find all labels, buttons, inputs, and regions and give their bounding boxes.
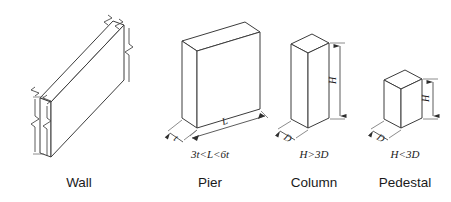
element-column: D H H>3D Column: [278, 34, 345, 190]
caption-pedestal: Pedestal: [379, 175, 432, 190]
formula-pier: 3t<L<6t: [190, 148, 230, 160]
wall-solid: [40, 21, 124, 157]
caption-wall: Wall: [66, 175, 92, 190]
element-pier: t L 3t<L<6t Pier: [168, 22, 268, 190]
pedestal-solid: [384, 70, 422, 128]
column-solid: [291, 34, 329, 128]
engineering-diagram: Wall t: [0, 0, 451, 202]
caption-pier: Pier: [198, 175, 223, 190]
column-label-H: H: [327, 76, 338, 85]
pier-label-t: t: [172, 132, 181, 143]
pedestal-height-dimension: H: [420, 79, 438, 119]
column-height-dimension: H: [327, 43, 345, 119]
element-wall: Wall: [31, 15, 133, 190]
pedestal-label-H: H: [420, 94, 431, 103]
element-pedestal: D H H<3D Pedestal: [371, 70, 438, 190]
caption-column: Column: [291, 175, 338, 190]
wall-right-dimension: [125, 28, 133, 82]
diagram-canvas: Wall t: [0, 0, 451, 202]
pier-solid: [182, 22, 260, 128]
formula-pedestal: H<3D: [390, 148, 420, 160]
formula-column: H>3D: [299, 148, 329, 160]
